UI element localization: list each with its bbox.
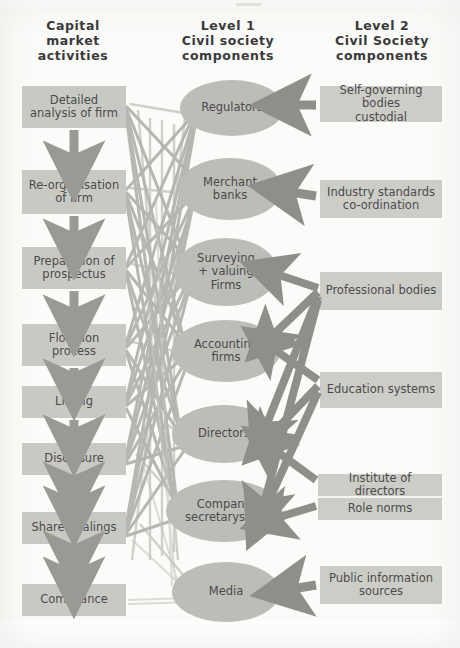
node-detailed-analysis[interactable]: Detailedanalysis of firm (22, 86, 126, 128)
node-listing[interactable]: Listing (22, 386, 126, 418)
node-institute[interactable]: Institute of directors (318, 474, 442, 496)
node-surveying[interactable]: Surveying+ valuingFirms (174, 238, 278, 306)
node-public-info[interactable]: Public informationsources (320, 566, 442, 604)
node-merchant[interactable]: Merchantbanks (178, 158, 282, 220)
column-header-middle: Level 1Civil societycomponents (164, 18, 292, 63)
node-compliance[interactable]: Compliance (22, 584, 126, 616)
node-professional[interactable]: Professional bodies (320, 272, 442, 310)
node-industry[interactable]: Industry standardsco-ordination (320, 180, 442, 218)
node-self-governing[interactable]: Self-governing bodiescustodial (320, 86, 442, 122)
node-company-sec[interactable]: Companysecretaryship (166, 480, 282, 542)
node-accounting[interactable]: Accountingfirms (172, 320, 280, 382)
column-header-right: Level 2Civil Societycomponents (316, 18, 448, 63)
node-media[interactable]: Media (172, 562, 280, 622)
node-regulators[interactable]: Regulators (180, 80, 284, 136)
node-directors[interactable]: Directors (172, 405, 276, 463)
node-disclosure[interactable]: Disclosure (22, 443, 126, 475)
node-share-dealings[interactable]: Share dealings (22, 512, 126, 544)
column-header-left: Capitalmarketactivities (18, 18, 128, 63)
node-preparation[interactable]: Preparation ofprospectus (22, 247, 126, 289)
node-role-norms[interactable]: Role norms (318, 498, 442, 520)
node-re-organisation[interactable]: Re-organisationof firm (22, 170, 126, 214)
diagram-canvas: Capitalmarketactivities Level 1Civil soc… (0, 0, 460, 648)
node-flotation[interactable]: Flotationprocess (22, 324, 126, 366)
node-education[interactable]: Education systems (320, 372, 442, 408)
